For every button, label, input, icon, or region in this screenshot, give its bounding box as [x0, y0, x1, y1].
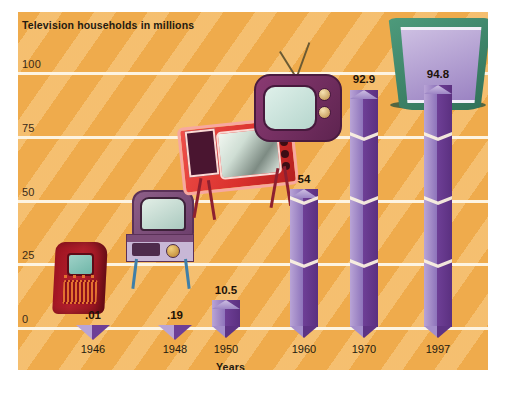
bar-1948 — [158, 325, 192, 340]
xtick-label-1970: 1970 — [334, 343, 394, 355]
bar-value-1997: 94.8 — [408, 68, 468, 80]
bar-1960 — [290, 189, 318, 327]
chart-title: Television households in millions — [22, 19, 194, 31]
bar-1946 — [76, 325, 110, 340]
ytick-label-100: 100 — [22, 58, 41, 70]
xtick-label-1946: 1946 — [63, 343, 123, 355]
bar-value-1970: 92.9 — [334, 73, 394, 85]
xtick-label-1960: 1960 — [274, 343, 334, 355]
bar-value-1948: .19 — [145, 309, 205, 321]
bar-value-1946: .01 — [63, 309, 123, 321]
chart-screenshot: .01 .19 10.5 54 — [0, 0, 506, 394]
tv-1960-antenna-set-icon — [254, 34, 346, 138]
chart-panel: .01 .19 10.5 54 — [18, 12, 488, 370]
xtick-label-1950: 1950 — [196, 343, 256, 355]
xtick-label-1997: 1997 — [408, 343, 468, 355]
bar-value-1950: 10.5 — [196, 284, 256, 296]
bar-value-1960: 54 — [274, 173, 334, 185]
ytick-label-75: 75 — [22, 122, 35, 134]
x-axis-title: Years — [216, 361, 245, 370]
bar-1970 — [350, 90, 378, 327]
ytick-label-50: 50 — [22, 186, 35, 198]
tv-1946-console-icon — [54, 242, 110, 318]
bar-1950 — [212, 300, 240, 327]
ytick-label-0: 0 — [22, 313, 28, 325]
plot-area: .01 .19 10.5 54 — [18, 12, 488, 370]
ytick-label-25: 25 — [22, 249, 35, 261]
bar-1997 — [424, 85, 452, 327]
